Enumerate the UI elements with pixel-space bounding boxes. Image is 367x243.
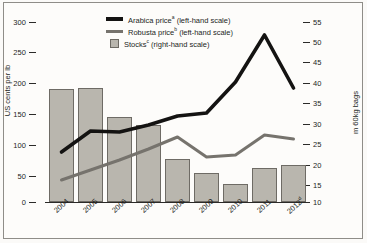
legend-label-stocks: Stocksc (right-hand scale) [124, 38, 209, 49]
right-axis-title: m 60kg bags [351, 91, 360, 134]
line-arabica-price [62, 35, 294, 152]
left-axis-tick: 100 [2, 141, 36, 150]
legend-item-robusta-price: Robusta priceb (left-hand scale) [106, 25, 233, 37]
left-axis-tick: 0 [2, 198, 36, 207]
legend-item-arabica-price: Arabica pricea (left-hand scale) [106, 13, 233, 25]
chart-legend: Arabica pricea (left-hand scale) Robusta… [106, 13, 233, 49]
legend-item-stocks: Stocksc (right-hand scale) [106, 37, 233, 49]
chart-figure: 300 250 200 150 100 50 0 US cents per lb… [0, 0, 367, 243]
legend-line-icon-arabica [106, 17, 123, 21]
legend-line-icon-robusta [106, 30, 123, 33]
left-axis-title: US cents per lb [3, 65, 12, 116]
legend-box-icon-stocks [110, 39, 119, 48]
legend-label-robusta: Robusta priceb (left-hand scale) [128, 26, 233, 37]
left-axis-tick: 300 [2, 18, 36, 27]
legend-label-arabica: Arabica pricea (left-hand scale) [128, 14, 230, 25]
left-axis-tick: 50 [2, 172, 36, 181]
left-axis-tick: 250 [2, 48, 36, 57]
line-robusta-price [62, 135, 294, 180]
